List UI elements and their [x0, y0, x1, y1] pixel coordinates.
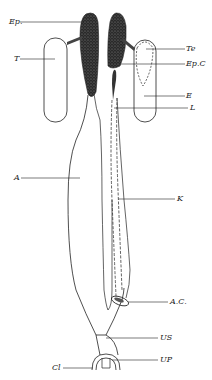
left-testis [44, 38, 67, 122]
label-ac: A.C. [170, 298, 187, 306]
label-ep-c: Ep.C [186, 60, 206, 68]
diagram-drawing [0, 0, 212, 380]
label-l: L [190, 104, 195, 112]
left-epididymis [80, 13, 99, 97]
label-t: T [14, 55, 19, 63]
label-up: UP [160, 356, 172, 364]
label-te: Te [186, 45, 195, 53]
label-cl: Cl [52, 364, 61, 372]
left-efferent-duct [67, 36, 82, 45]
label-ep: Ep. [9, 18, 23, 26]
duct-k-outer [117, 98, 130, 298]
duct-start [112, 70, 116, 100]
inner-duct [94, 94, 112, 310]
label-e: E [186, 92, 192, 100]
anatomical-diagram: Ep. T Te Ep.C E L A K A.C. US UP Cl [0, 0, 212, 380]
label-a: A [14, 174, 20, 182]
duct-k-mid [117, 98, 122, 290]
urogenital-papilla [102, 358, 110, 368]
label-us: US [160, 334, 172, 342]
label-k: K [177, 195, 183, 203]
